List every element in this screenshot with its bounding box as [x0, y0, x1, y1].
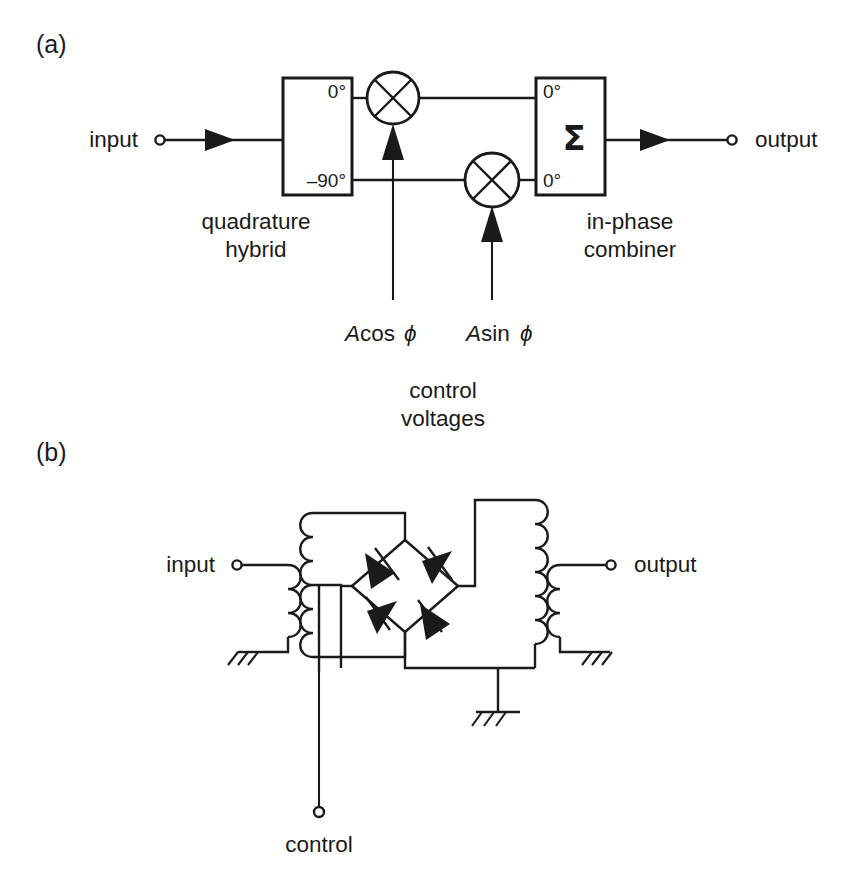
panel-b-output-terminal-icon[interactable]: [606, 560, 615, 569]
panel-b-input-terminal-icon[interactable]: [232, 560, 241, 569]
hybrid-caption-line2: hybrid: [225, 237, 286, 262]
figure-container: (a) input 0° –90° quadrature hybrid 0° 0…: [0, 0, 866, 874]
input-secondary-winding-icon: [300, 513, 313, 657]
figure-svg: (a) input 0° –90° quadrature hybrid 0° 0…: [0, 0, 866, 874]
panel-a: (a) input 0° –90° quadrature hybrid 0° 0…: [36, 30, 818, 431]
diode-bridge-group[interactable]: [352, 540, 458, 640]
ground-symbol-input-icon: [228, 652, 262, 665]
input-direction-arrow-icon: [205, 129, 235, 151]
control-arrow-upper-icon: [382, 124, 404, 160]
panel-b-output-label: output: [634, 552, 697, 577]
input-primary-ground-lead: [262, 637, 288, 652]
output-direction-arrow-icon: [640, 129, 670, 151]
combiner-caption-line2: combiner: [584, 237, 677, 262]
panel-a-label: (a): [36, 30, 67, 58]
panel-b-label: (b): [36, 438, 67, 466]
hybrid-port-top-label: 0°: [328, 81, 346, 102]
combiner-sigma-symbol: Σ: [562, 118, 585, 158]
diode-lower-left-icon: [366, 597, 397, 634]
control-terminal-node-icon[interactable]: [314, 807, 324, 817]
output-secondary-ground-lead: [560, 637, 586, 652]
control-upper-function: cos: [360, 321, 395, 346]
output-primary-winding-icon: [535, 500, 548, 644]
bridge-right-to-output-top-wire: [458, 500, 535, 586]
combiner-caption-line1: in-phase: [587, 209, 673, 234]
bridge-bottom-to-output-bottom-wire: [405, 632, 535, 668]
panel-b: (b) input: [36, 438, 697, 857]
panel-b-input-label: input: [166, 552, 216, 577]
control-lower-phi: ϕ: [520, 321, 533, 346]
combiner-port-top-label: 0°: [543, 81, 561, 102]
panel-b-control-label: control: [285, 832, 353, 857]
control-upper-expression: A cos ϕ: [343, 321, 417, 346]
panel-a-output-label: output: [755, 127, 818, 152]
output-secondary-winding-icon: [547, 565, 560, 637]
output-terminal-node-icon[interactable]: [727, 135, 736, 144]
control-lower-function: sin: [481, 321, 510, 346]
diode-upper-left-icon: [365, 548, 399, 589]
bridge-bottom-feed-wire: [313, 632, 405, 657]
ground-symbol-output-icon: [582, 652, 612, 665]
panel-a-input-label: input: [89, 127, 139, 152]
control-caption-line2: voltages: [401, 406, 485, 431]
combiner-port-bottom-label: 0°: [543, 170, 561, 191]
bridge-top-feed-wire: [313, 513, 405, 540]
hybrid-port-bottom-label: –90°: [307, 170, 346, 191]
control-lower-expression: A sin ϕ: [464, 321, 533, 346]
input-primary-winding-icon: [288, 565, 301, 637]
control-upper-phi: ϕ: [404, 321, 417, 346]
ground-symbol-center-icon: [472, 712, 520, 726]
control-arrow-lower-icon: [481, 206, 503, 242]
control-upper-amplitude: A: [343, 321, 360, 346]
secondary-center-tap-wire: [313, 585, 341, 668]
control-caption-line1: control: [409, 378, 477, 403]
hybrid-caption-line1: quadrature: [202, 209, 311, 234]
input-terminal-node-icon[interactable]: [155, 135, 164, 144]
control-lower-amplitude: A: [464, 321, 481, 346]
